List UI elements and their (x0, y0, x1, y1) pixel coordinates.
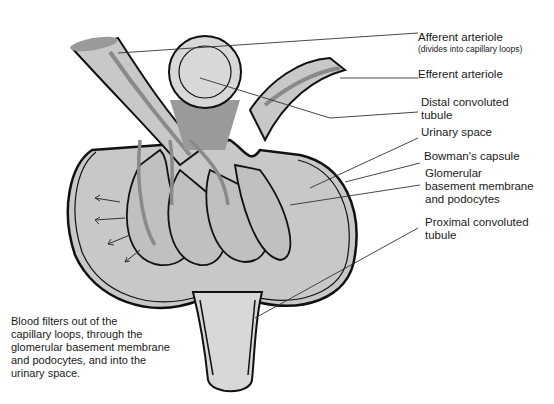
label-text: Afferent arteriole (418, 31, 503, 43)
label-proximal-convoluted-tubule: Proximal convoluted tubule (425, 216, 529, 242)
label-urinary-space: Urinary space (421, 126, 492, 139)
caption: Blood filters out of the capillary loops… (11, 315, 201, 380)
label-subtext: (divides into capillary loops) (418, 44, 522, 55)
label-bowmans-capsule: Bowman's capsule (424, 150, 520, 163)
label-afferent-arteriole: Afferent arteriole (divides into capilla… (418, 18, 522, 68)
label-distal-convoluted-tubule: Distal convoluted tubule (421, 96, 509, 122)
label-glomerular-basement-membrane: Glomerular basement membrane and podocyt… (425, 167, 534, 206)
label-efferent-arteriole: Efferent arteriole (418, 68, 503, 81)
